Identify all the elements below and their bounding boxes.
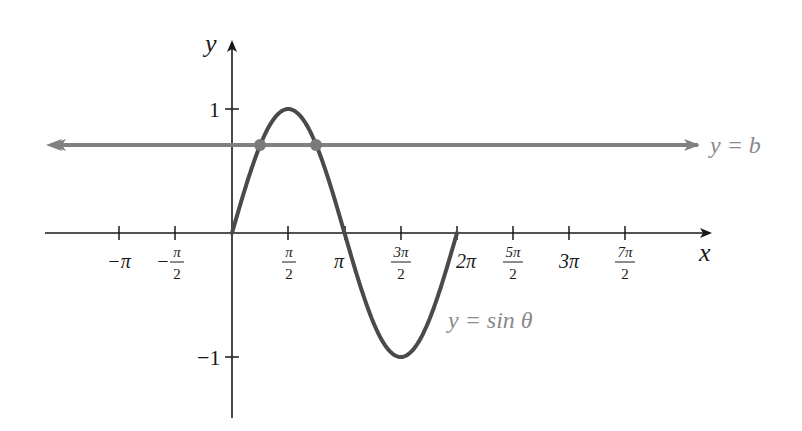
svg-text:5π: 5π (505, 244, 521, 260)
svg-text:2: 2 (397, 266, 405, 282)
line-label: y = b (708, 132, 761, 158)
svg-text:−π: −π (107, 250, 131, 272)
curve-label: y = sin θ (446, 307, 533, 333)
x-tick-labels: −π − π 2 π 2 π 3π 2 2π 5π 2 3π 7π 2 (107, 244, 635, 282)
svg-text:2: 2 (621, 266, 629, 282)
svg-text:7π: 7π (617, 244, 633, 260)
svg-text:π: π (173, 244, 181, 260)
y-axis-label: y (202, 29, 217, 58)
svg-text:2: 2 (285, 266, 293, 282)
svg-text:2: 2 (173, 266, 181, 282)
intersection-point (310, 139, 322, 151)
sine-graph: y x 1 −1 −π − π 2 π 2 π 3π 2 2π 5π 2 3π … (0, 0, 802, 431)
svg-text:3π: 3π (558, 250, 580, 272)
y-tick-label-neg1: −1 (197, 345, 220, 370)
svg-text:3π: 3π (392, 244, 409, 260)
svg-text:−: − (157, 250, 168, 272)
intersection-point (254, 139, 266, 151)
y-tick-label-1: 1 (209, 97, 220, 122)
svg-text:π: π (334, 250, 345, 272)
svg-text:2: 2 (509, 266, 517, 282)
x-axis-label: x (698, 238, 711, 267)
svg-text:2π: 2π (456, 250, 477, 272)
svg-text:π: π (285, 244, 293, 260)
